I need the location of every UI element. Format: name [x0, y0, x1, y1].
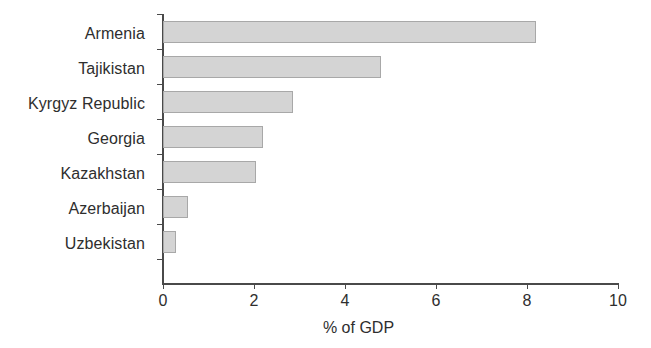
- x-axis-tick-label: 2: [250, 293, 259, 309]
- y-axis-label-armenia: Armenia: [0, 26, 145, 42]
- x-axis-tick-label: 8: [523, 293, 532, 309]
- x-axis-tick-label: 10: [609, 293, 627, 309]
- plot-area: [163, 14, 618, 283]
- y-axis-tick: [157, 224, 163, 225]
- x-axis-tick: [345, 283, 346, 289]
- bar-kazakhstan: [163, 161, 256, 183]
- y-axis-tick: [157, 119, 163, 120]
- y-axis-tick: [157, 14, 163, 15]
- y-axis-tick: [157, 154, 163, 155]
- x-axis-tick-label: 6: [432, 293, 441, 309]
- x-axis-tick-label: 0: [159, 293, 168, 309]
- x-axis-tick: [254, 283, 255, 289]
- y-axis-tick: [157, 84, 163, 85]
- bar-kyrgyz-republic: [163, 91, 293, 113]
- y-axis-label-tajikistan: Tajikistan: [0, 61, 145, 77]
- x-axis-tick: [436, 283, 437, 289]
- bar-armenia: [163, 21, 536, 43]
- y-axis-tick: [157, 49, 163, 50]
- x-axis-line: [162, 283, 619, 285]
- x-axis-title: % of GDP: [0, 319, 651, 337]
- bar-tajikistan: [163, 56, 381, 78]
- y-axis-tick: [157, 189, 163, 190]
- bar-georgia: [163, 126, 263, 148]
- bar-azerbaijan: [163, 196, 188, 218]
- x-axis-tick: [527, 283, 528, 289]
- x-axis-tick: [618, 283, 619, 289]
- bar-chart: Armenia Tajikistan Kyrgyz Republic Georg…: [0, 0, 651, 348]
- x-axis-tick-label: 4: [341, 293, 350, 309]
- y-axis-category-labels: Armenia Tajikistan Kyrgyz Republic Georg…: [0, 14, 155, 283]
- y-axis-label-georgia: Georgia: [0, 131, 145, 147]
- y-axis-label-kazakhstan: Kazakhstan: [0, 166, 145, 182]
- y-axis-tick: [157, 259, 163, 260]
- x-axis-title-text: % of GDP: [323, 319, 394, 336]
- y-axis-label-azerbaijan: Azerbaijan: [0, 201, 145, 217]
- bar-uzbekistan: [163, 231, 176, 253]
- x-axis-tick: [163, 283, 164, 289]
- y-axis-label-kyrgyz-republic: Kyrgyz Republic: [0, 96, 145, 112]
- y-axis-label-uzbekistan: Uzbekistan: [0, 236, 145, 252]
